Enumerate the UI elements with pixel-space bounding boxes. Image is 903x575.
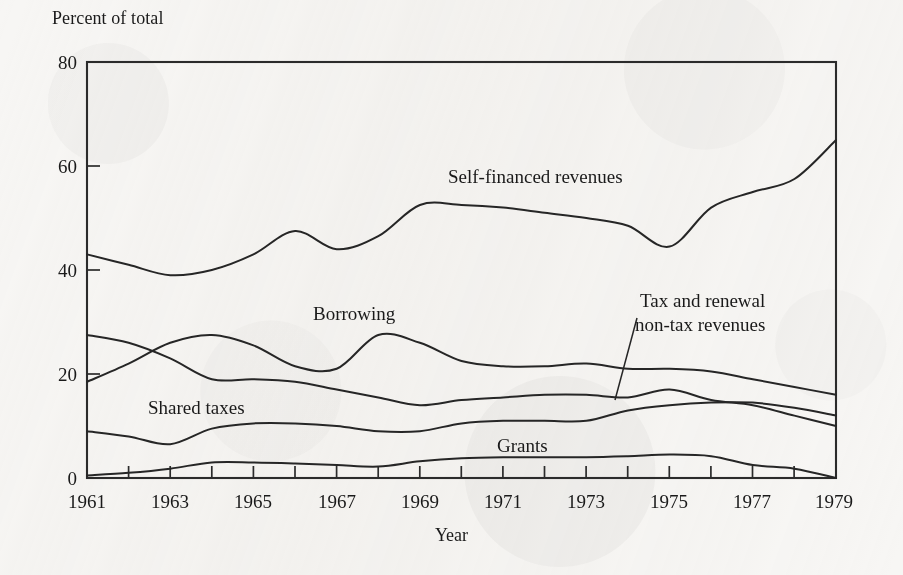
- series-line-self-financed-revenues: [87, 140, 836, 275]
- series-label-grants: Grants: [497, 435, 548, 456]
- x-tick-label: 1971: [484, 491, 522, 512]
- x-axis-tick-labels: 1961 1963 1965 1967 1969 1971 1973 1975 …: [68, 491, 853, 512]
- annotation-leader-line: [615, 318, 637, 400]
- chart-page: Percent of total 0 20 40 60 80: [0, 0, 903, 575]
- y-tick-label: 20: [58, 364, 77, 385]
- x-tick-label: 1965: [234, 491, 272, 512]
- x-tick-label: 1963: [151, 491, 189, 512]
- x-tick-label: 1979: [815, 491, 853, 512]
- y-axis-ticks: [87, 62, 100, 478]
- y-tick-label: 40: [58, 260, 77, 281]
- x-axis-ticks: [87, 466, 836, 478]
- x-tick-label: 1975: [650, 491, 688, 512]
- x-axis-title: Year: [0, 525, 903, 546]
- y-tick-label: 0: [68, 468, 78, 489]
- series-label-tax-nontax-line1: Tax and renewal: [640, 290, 765, 311]
- x-tick-label: 1977: [733, 491, 771, 512]
- y-tick-label: 80: [58, 52, 77, 73]
- series-line-borrowing: [87, 334, 836, 395]
- x-tick-label: 1969: [401, 491, 439, 512]
- line-chart: 0 20 40 60 80: [0, 0, 903, 575]
- x-tick-label: 1967: [318, 491, 356, 512]
- series-label-borrowing: Borrowing: [313, 303, 396, 324]
- series-label-tax-nontax-line2: non-tax revenues: [635, 314, 765, 335]
- x-tick-label: 1973: [567, 491, 605, 512]
- x-tick-label: 1961: [68, 491, 106, 512]
- y-tick-label: 60: [58, 156, 77, 177]
- series-label-shared-taxes: Shared taxes: [148, 397, 245, 418]
- series-label-self-financed: Self-financed revenues: [448, 166, 623, 187]
- y-axis-tick-labels: 0 20 40 60 80: [58, 52, 77, 489]
